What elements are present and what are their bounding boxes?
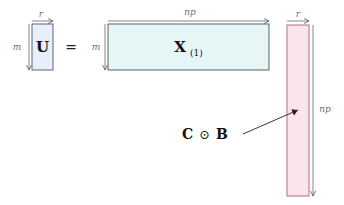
equals-sign: =	[65, 39, 77, 55]
u-rows-label: m	[13, 42, 22, 52]
matrix-u: U r m	[13, 9, 53, 70]
cb-annotation: C ⊙ B	[182, 110, 298, 142]
u-cols-label: r	[39, 9, 44, 19]
cb-rows-label: np	[319, 104, 331, 114]
matrix-x1-box	[108, 24, 269, 70]
x1-cols-label: np	[184, 7, 196, 17]
x1-rows-label: m	[92, 42, 101, 52]
factorization-diagram: U r m = X (1) np m r np C ⊙ B	[0, 0, 344, 205]
matrix-cb: r np	[287, 9, 331, 196]
matrix-x1-label: X	[174, 38, 186, 56]
cb-cols-label: r	[296, 9, 301, 19]
matrix-u-label: U	[36, 38, 49, 56]
matrix-x1-subscript: (1)	[190, 48, 203, 58]
cb-annotation-label: C ⊙ B	[182, 125, 228, 142]
matrix-cb-box	[287, 25, 309, 196]
matrix-x1: X (1) np m	[92, 7, 269, 70]
